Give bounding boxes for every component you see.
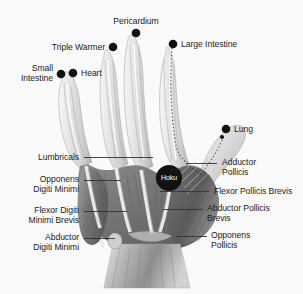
pericardium-marker-dot[interactable] — [132, 29, 141, 38]
hand-anatomy-diagram: PericardiumTriple WarmerLarge IntestineH… — [0, 0, 303, 294]
pericardium-label: Pericardium — [0, 16, 272, 26]
opponens-pollicis-label: Opponens Pollicis — [211, 230, 250, 250]
lung-secondary-dot — [220, 135, 224, 139]
opponens-digiti-minimi-label: Opponens Digiti Minimi — [33, 174, 79, 194]
triple-warmer-marker-dot[interactable] — [109, 43, 118, 52]
flexor-pollicis-brevis-label: Flexor Pollicis Brevis — [214, 186, 292, 196]
lung-label: Lung — [234, 124, 253, 134]
small-intestine-marker-dot[interactable] — [57, 70, 66, 79]
hoku-label: Hoku — [156, 174, 182, 181]
abductor-digiti-minimi-label: Abductor Digiti Minimi — [33, 232, 79, 252]
lumbricals-label: Lumbricals — [38, 152, 79, 162]
lung-marker-dot[interactable] — [222, 125, 231, 134]
heart-label: Heart — [81, 68, 102, 78]
abductor-pollicis-brevis-label: Abductor Pollicis Brevis — [207, 203, 270, 223]
small-intestine-label: Small Intestine — [21, 63, 53, 83]
large-intestine-label: Large Intestine — [181, 39, 237, 49]
triple-warmer-label: Triple Warmer — [52, 42, 105, 52]
heart-marker-dot[interactable] — [69, 69, 78, 78]
large-intestine-marker-dot[interactable] — [169, 40, 178, 49]
flexor-digiti-minimi-brevis-label: Flexor Digiti Minimi Brevis — [29, 205, 79, 225]
adductor-pollicis-label: Adductor Pollicis — [222, 157, 256, 177]
